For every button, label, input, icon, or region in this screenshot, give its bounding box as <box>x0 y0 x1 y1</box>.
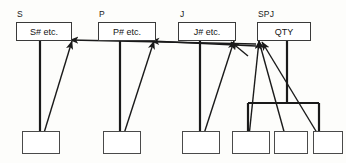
spj-relvar-attribute-box: QTY <box>257 22 311 41</box>
s-relvar-attribute-box: S# etc. <box>16 22 72 41</box>
spj-relvar-label: SPJ <box>258 10 274 19</box>
relational-diagram: SS# etc.PP# etc.JJ# etc.SPJQTY <box>0 0 346 163</box>
p-relvar-attribute-box: P# etc. <box>98 22 156 41</box>
leaf-box-4 <box>232 131 270 154</box>
leaf-box-1 <box>22 131 60 154</box>
leaf-box-2 <box>103 131 141 154</box>
bracket-layer <box>248 103 319 131</box>
s-relvar-label: S <box>17 10 23 19</box>
stem-layer <box>40 41 287 131</box>
p-relvar-label: P <box>99 10 105 19</box>
leaf-box-6 <box>313 131 343 154</box>
leaf-box-3 <box>182 131 220 154</box>
leaf-box-5 <box>274 131 308 154</box>
j-relvar-attribute-box: J# etc. <box>178 22 236 41</box>
j-relvar-label: J <box>180 10 184 19</box>
